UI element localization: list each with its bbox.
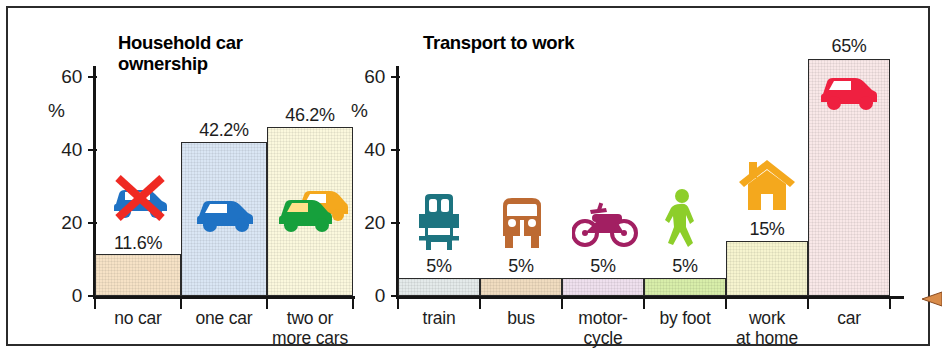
category-label-by-foot: by foot <box>644 308 726 328</box>
left-ytick-60 <box>88 76 97 78</box>
chart-title-transport: Transport to work <box>423 32 683 53</box>
right-ytick-60 <box>391 76 400 78</box>
one-car-icon <box>193 194 257 236</box>
category-label-no-car: no car <box>95 308 181 328</box>
value-label-no-car: 11.6% <box>95 233 181 254</box>
right-ylabel-40: 40 <box>341 139 385 161</box>
category-label-work-at-home-line2: at home <box>736 328 798 348</box>
value-label-work-at-home: 15% <box>726 219 808 240</box>
category-label-two-or-more-cars: two or more cars <box>263 308 357 348</box>
bar-work-at-home <box>726 241 808 296</box>
edge-arrow-marker <box>916 289 942 309</box>
left-ytick-20 <box>88 222 97 224</box>
value-label-motorcycle: 5% <box>562 256 644 277</box>
category-label-motorcycle-line1: motor- <box>578 308 627 328</box>
pedestrian-icon <box>663 189 703 251</box>
category-label-train: train <box>398 308 480 328</box>
category-label-bus: bus <box>480 308 562 328</box>
category-label-work-at-home: work at home <box>722 308 812 348</box>
left-ylabel-60: 60 <box>38 66 82 88</box>
bar-motorcycle <box>562 278 644 296</box>
category-label-motorcycle: motor- cycle <box>562 308 644 348</box>
right-axis-percent-symbol: % <box>351 100 368 122</box>
category-label-two-or-more-cars-line2: more cars <box>272 328 348 348</box>
left-ylabel-0: 0 <box>38 285 82 307</box>
right-ytick-40 <box>391 149 400 151</box>
right-ylabel-20: 20 <box>341 212 385 234</box>
value-label-two-or-more-cars: 46.2% <box>267 105 353 126</box>
bar-train <box>398 278 480 296</box>
left-axis-percent-symbol: % <box>48 100 65 122</box>
chart-title-household: Household car ownership <box>118 32 318 74</box>
two-cars-icon <box>276 188 350 238</box>
left-ylabel-20: 20 <box>38 212 82 234</box>
value-label-bus: 5% <box>480 256 562 277</box>
value-label-car: 65% <box>808 36 890 57</box>
train-icon <box>414 194 464 252</box>
right-x-axis <box>396 296 904 299</box>
left-x-axis <box>93 296 355 299</box>
category-label-car: car <box>808 308 890 328</box>
bar-no-car <box>95 254 181 296</box>
chart-title-household-line1: Household car <box>118 32 243 53</box>
motorcycle-icon <box>572 198 638 248</box>
bar-bus <box>480 278 562 296</box>
category-label-two-or-more-cars-line1: two or <box>287 308 333 328</box>
left-ylabel-40: 40 <box>38 139 82 161</box>
bus-icon <box>499 196 545 250</box>
no-car-icon <box>106 170 172 226</box>
category-label-one-car: one car <box>181 308 267 328</box>
car-icon <box>816 72 882 114</box>
house-icon <box>737 158 797 214</box>
right-ylabel-0: 0 <box>341 285 385 307</box>
right-ytick-20 <box>391 222 400 224</box>
value-label-one-car: 42.2% <box>181 120 267 141</box>
bar-by-foot <box>644 278 726 296</box>
category-label-work-at-home-line1: work <box>749 308 785 328</box>
right-ylabel-60: 60 <box>341 66 385 88</box>
figure-frame: Household car ownership 60 40 20 0 % 11.… <box>6 6 930 346</box>
value-label-train: 5% <box>398 256 480 277</box>
chart-title-household-line2: ownership <box>118 53 208 74</box>
value-label-by-foot: 5% <box>644 256 726 277</box>
left-ytick-40 <box>88 149 97 151</box>
category-label-motorcycle-line2: cycle <box>584 328 623 348</box>
